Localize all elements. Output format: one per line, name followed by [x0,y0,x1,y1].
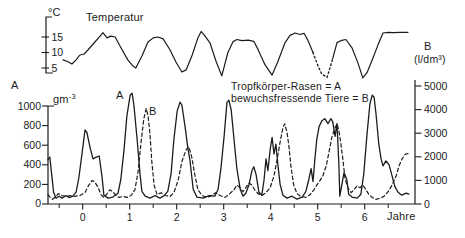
temperature-title: Temperatur [86,12,144,23]
x-axis-tick-label: 2 [174,211,180,223]
left-axis-tick-label: 600 [23,139,41,151]
right-axis-tick-label: 3000 [424,127,448,139]
right-axis-tick-label: 5000 [424,80,448,92]
temp-axis-tick-label: 10 [52,46,64,58]
series-b-line [48,108,410,199]
temperature-line-dotted-1 [313,53,333,78]
left-axis-letter: A [11,80,19,91]
left-axis-tick-label: 200 [23,178,41,190]
series-b-annotation: B [149,106,157,117]
left-axis-unit-exponent: -3 [69,92,76,101]
right-axis-letter: B [424,41,432,52]
left-axis-tick-label: 1000 [18,100,42,112]
left-axis-tick-label: 800 [23,119,41,131]
left-axis-unit-base: gm [53,93,69,105]
x-axis-tick-label: 4 [268,211,274,223]
x-axis-tick-label: 0 [80,211,86,223]
chart-canvas: 5101502004006008001000010002000300040005… [0,0,465,238]
x-axis-tick-label: 1 [127,211,133,223]
left-axis-tick-label: 400 [23,158,41,170]
left-axis-tick-label: 0 [35,197,41,209]
legend-line-a: Tropfkörper-Rasen = A [231,81,341,92]
right-axis-tick-label: 1000 [424,174,448,186]
x-axis-unit-label: Jahre [387,211,416,222]
temp-axis-tick-label: 15 [52,31,64,43]
legend-line-b: bewuchsfressende Tiere = B [231,93,369,104]
x-axis-tick-label: 5 [315,211,321,223]
temp-axis-unit-label: °C [48,7,61,18]
temperature-line-solid-0 [63,31,313,75]
left-axis-unit-label: gm-3 [53,93,76,105]
figure: 5101502004006008001000010002000300040005… [0,0,465,238]
temperature-line-solid-2 [333,32,408,78]
right-axis-tick-label: 0 [424,198,430,210]
temp-axis-tick-label: 5 [52,62,58,74]
right-axis-tick-label: 4000 [424,103,448,115]
right-axis-unit-label: (l/dm³) [414,54,446,65]
right-axis-tick-label: 2000 [424,150,448,162]
x-axis-tick-label: 6 [362,211,368,223]
x-axis-tick-label: 3 [221,211,227,223]
series-a-line [48,93,409,199]
series-a-annotation: A [116,90,124,101]
